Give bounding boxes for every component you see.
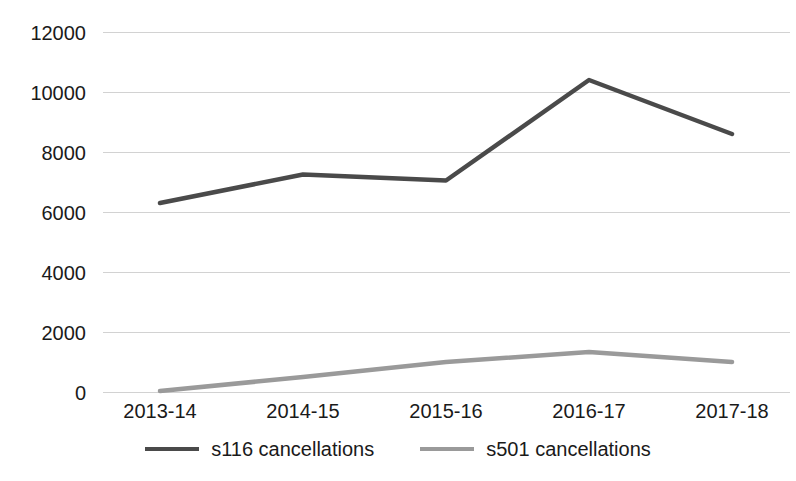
x-tick-label: 2016-17 xyxy=(552,400,625,422)
legend-item-s501-cancellations: s501 cancellations xyxy=(420,438,651,460)
series-line-s501-cancellations xyxy=(160,352,732,391)
legend-label: s116 cancellations xyxy=(211,438,374,460)
legend-line-swatch-icon xyxy=(420,447,474,451)
legend-line-swatch-icon xyxy=(145,447,199,451)
series-line-s116-cancellations xyxy=(160,80,732,203)
y-tick-label: 8000 xyxy=(42,143,87,163)
y-axis: 12000 10000 8000 6000 4000 2000 0 xyxy=(0,0,96,481)
y-tick-label: 2000 xyxy=(42,323,87,343)
legend-item-s116-cancellations: s116 cancellations xyxy=(145,438,374,460)
y-tick-label: 10000 xyxy=(30,83,86,103)
y-tick-label: 0 xyxy=(75,383,86,403)
x-tick-label: 2014-15 xyxy=(266,400,339,422)
chart-legend: s116 cancellations s501 cancellations xyxy=(0,432,796,466)
line-chart: 12000 10000 8000 6000 4000 2000 0 2013-1… xyxy=(0,0,796,481)
y-tick-label: 12000 xyxy=(30,23,86,43)
x-tick-label: 2013-14 xyxy=(123,400,196,422)
series-lines xyxy=(103,22,790,404)
legend-label: s501 cancellations xyxy=(486,438,651,460)
y-tick-label: 4000 xyxy=(42,263,87,283)
x-tick-label: 2015-16 xyxy=(409,400,482,422)
x-axis: 2013-14 2014-15 2015-16 2016-17 2017-18 xyxy=(103,392,790,426)
x-tick-label: 2017-18 xyxy=(695,400,768,422)
y-tick-label: 6000 xyxy=(42,203,87,223)
plot-area xyxy=(103,22,790,404)
